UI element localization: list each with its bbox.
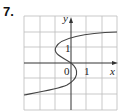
y-arrow-icon	[69, 17, 73, 23]
y-axis-label: y	[62, 12, 68, 24]
origin-label: 0	[64, 65, 70, 77]
x-axis-label: x	[109, 65, 115, 77]
graph: y x 1 0 1	[0, 0, 122, 112]
y-tick-label: 1	[65, 42, 71, 54]
x-tick-label: 1	[84, 65, 90, 77]
